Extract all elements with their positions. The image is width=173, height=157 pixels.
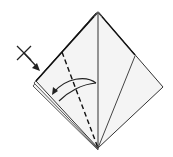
origami-diagram xyxy=(0,0,173,157)
arrow-down-right-icon xyxy=(24,53,40,71)
paper-diamond xyxy=(36,12,163,148)
